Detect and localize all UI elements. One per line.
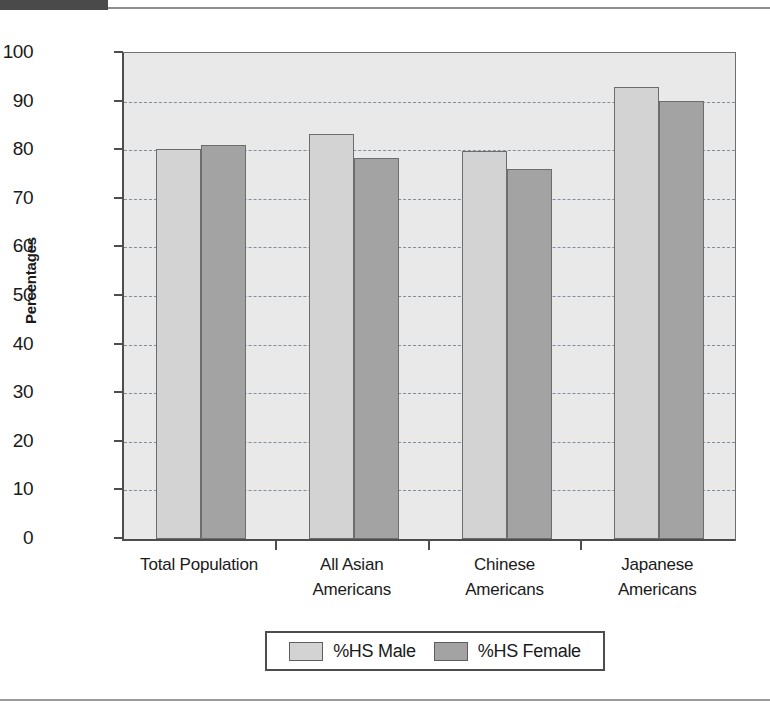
y-tick-label-100: 100 [0,41,33,63]
bar-female-group-2 [354,158,399,540]
category-label-line1: All Asian [320,555,383,574]
header-strip [0,0,108,10]
bar-male-group-3 [462,151,507,539]
bottom-separator-rule [0,699,770,701]
bar-female-group-4 [659,101,704,539]
y-tick-label-60: 60 [0,235,33,257]
y-tick-label-80: 80 [0,138,33,160]
category-label-line1: Total Population [140,555,258,574]
plot-area [122,52,736,541]
y-tick-label-20: 20 [0,430,33,452]
category-label-line2: Americans [567,577,747,602]
legend-item-male: %HS Male [289,641,416,662]
y-tick-label-30: 30 [0,381,33,403]
legend-item-female: %HS Female [434,641,581,662]
y-tick-label-70: 70 [0,187,33,209]
category-label-line1: Chinese [474,555,535,574]
y-tick-label-40: 40 [0,333,33,355]
category-label-4: JapaneseAmericans [567,552,747,602]
legend-swatch-male [289,642,323,661]
chart-legend: %HS Male%HS Female [265,631,605,671]
y-tick-label-0: 0 [0,527,33,549]
bar-chart: Percentages 1009080706050403020100 Total… [0,14,770,690]
legend-label: %HS Female [478,641,581,662]
legend-label: %HS Male [333,641,416,662]
legend-swatch-female [434,642,468,661]
bar-male-group-4 [614,87,659,539]
bar-female-group-3 [507,169,552,539]
y-tick-label-10: 10 [0,478,33,500]
y-tick-label-90: 90 [0,90,33,112]
bar-male-group-1 [156,149,201,539]
bar-male-group-2 [309,134,354,539]
category-label-line1: Japanese [621,555,693,574]
bar-female-group-1 [201,145,246,539]
y-tick-label-50: 50 [0,284,33,306]
header-rule [108,7,770,9]
